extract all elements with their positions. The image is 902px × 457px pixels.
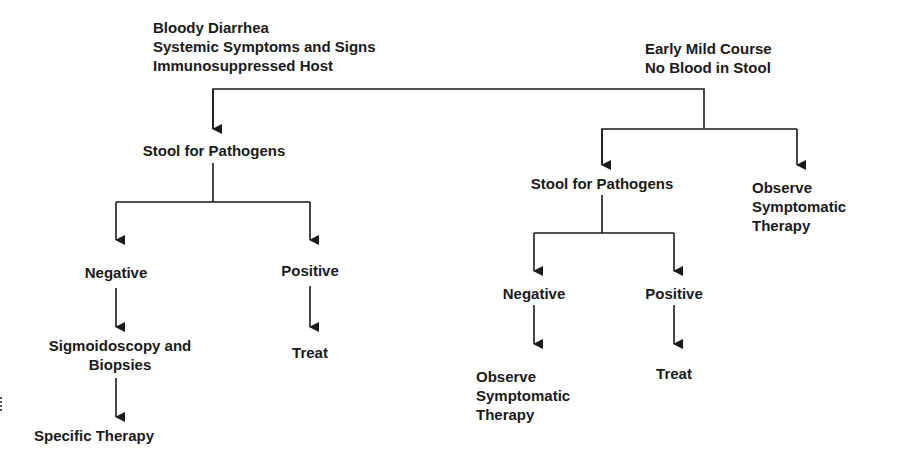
right-treat-label: Treat bbox=[634, 364, 714, 383]
right-negative-label: Negative bbox=[484, 284, 584, 303]
left-stool-label: Stool for Pathogens bbox=[122, 141, 306, 160]
sigmoidoscopy-line1: Sigmoidoscopy and bbox=[30, 336, 210, 355]
right-observe-symptomatic-therapy: Observe Symptomatic Therapy bbox=[752, 178, 846, 235]
condition-immunosuppressed: Immunosuppressed Host bbox=[153, 56, 376, 75]
right-condition: Early Mild Course No Blood in Stool bbox=[645, 39, 772, 77]
condition-systemic-symptoms: Systemic Symptoms and Signs bbox=[153, 37, 376, 56]
right-negative-observe-symptomatic-therapy: Observe Symptomatic Therapy bbox=[476, 367, 570, 424]
left-positive: Positive bbox=[260, 261, 360, 280]
right-positive-label: Positive bbox=[624, 284, 724, 303]
right-treat: Treat bbox=[634, 364, 714, 383]
left-stool-for-pathogens: Stool for Pathogens bbox=[122, 141, 306, 160]
sigmoidoscopy-line2: Biopsies bbox=[30, 355, 210, 374]
left-treat-label: Treat bbox=[270, 343, 350, 362]
alt-observe-line2: Symptomatic bbox=[752, 197, 846, 216]
condition-early-mild-course: Early Mild Course bbox=[645, 39, 772, 58]
right-negative: Negative bbox=[484, 284, 584, 303]
alt-observe-line1: Observe bbox=[752, 178, 846, 197]
right-positive: Positive bbox=[624, 284, 724, 303]
left-condition: Bloody Diarrhea Systemic Symptoms and Si… bbox=[153, 18, 376, 75]
right-stool-label: Stool for Pathogens bbox=[512, 174, 692, 193]
condition-no-blood-in-stool: No Blood in Stool bbox=[645, 58, 772, 77]
neg-observe-line3: Therapy bbox=[476, 405, 570, 424]
left-negative-label: Negative bbox=[66, 263, 166, 282]
left-negative: Negative bbox=[66, 263, 166, 282]
sigmoidoscopy-and-biopsies: Sigmoidoscopy and Biopsies bbox=[30, 336, 210, 374]
specific-therapy-label: Specific Therapy bbox=[34, 426, 154, 445]
left-treat: Treat bbox=[270, 343, 350, 362]
scan-artifact-mark bbox=[0, 397, 6, 411]
neg-observe-line2: Symptomatic bbox=[476, 386, 570, 405]
alt-observe-line3: Therapy bbox=[752, 216, 846, 235]
specific-therapy: Specific Therapy bbox=[34, 426, 154, 445]
neg-observe-line1: Observe bbox=[476, 367, 570, 386]
condition-bloody-diarrhea: Bloody Diarrhea bbox=[153, 18, 376, 37]
right-stool-for-pathogens: Stool for Pathogens bbox=[512, 174, 692, 193]
left-positive-label: Positive bbox=[260, 261, 360, 280]
